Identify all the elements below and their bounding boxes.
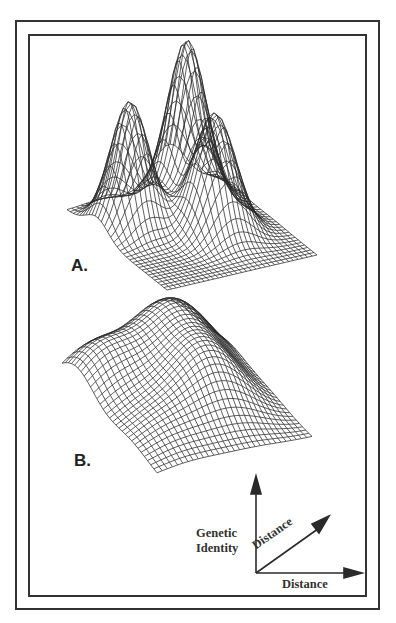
horizontal-distance-label: Distance	[282, 577, 328, 592]
genetic-identity-label: Genetic Identity	[196, 526, 238, 556]
arrow-up-icon	[251, 476, 261, 494]
axis-label-line1: Genetic	[196, 526, 238, 541]
axis-label-line2: Identity	[196, 541, 238, 556]
arrow-right-icon	[344, 568, 362, 578]
